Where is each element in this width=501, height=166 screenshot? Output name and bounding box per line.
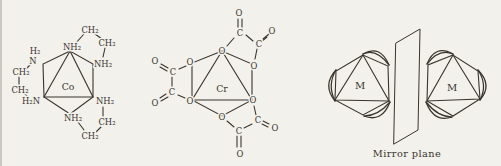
- amine-label-lower-left: H₂N: [22, 96, 40, 106]
- amine-label-top: NH₂: [63, 42, 81, 52]
- oxalate-bonds-bottom: [227, 106, 269, 147]
- oxygen-label-carbonyl-bottom-b: O: [272, 123, 279, 133]
- amine-label-lower-right: NH₂: [96, 96, 114, 106]
- carbon-label-top-a: C: [237, 28, 243, 38]
- ch2-label-top-a: CH₂: [81, 25, 98, 35]
- figure-canvas: Co NH₂ H₂ N NH₂ H₂N NH₂ NH₂ CH₂ CH₂ CH₂ …: [0, 0, 501, 166]
- mirror-diagram: M M Mirror plane: [329, 29, 486, 159]
- chromium-labels: Cr O O O O O O C C C C C C O O O O O O: [152, 8, 279, 159]
- oxygen-label-ring-lower-right: O: [250, 95, 257, 105]
- mirror-plane: [394, 29, 420, 144]
- chromium-metal-label: Cr: [216, 83, 228, 94]
- carbon-label-bottom-b: C: [255, 115, 261, 125]
- cobalt-labels: Co NH₂ H₂ N NH₂ H₂N NH₂ NH₂ CH₂ CH₂ CH₂ …: [11, 25, 115, 141]
- ch2-label-top-b: CH₂: [98, 38, 115, 48]
- oxygen-label-carbonyl-top-b: O: [269, 26, 276, 36]
- oxygen-label-ring-bottom: O: [219, 112, 226, 122]
- chromium-complex: Cr O O O O O O C C C C C C O O O O O O: [152, 8, 279, 159]
- ch2-label-left-a: CH₂: [12, 67, 29, 77]
- carbon-label-top-b: C: [256, 39, 262, 49]
- carbon-label-bottom-a: C: [236, 126, 242, 136]
- oxygen-label-ring-top: O: [219, 46, 226, 56]
- ch2-label-left-b: CH₂: [11, 85, 28, 95]
- ch2-label-bottom-b: CH₂: [98, 117, 115, 127]
- left-metal-label: M: [355, 80, 365, 91]
- oxygen-label-ring-upper-left: O: [187, 57, 194, 67]
- ch2-label-bottom-a: CH₂: [81, 131, 98, 141]
- amine-label-upper-right: NH₂: [94, 59, 112, 69]
- carbon-label-left-a: C: [170, 67, 176, 77]
- amine-label-upper-left-n: N: [29, 56, 36, 66]
- cobalt-metal-label: Co: [62, 81, 75, 92]
- oxygen-label-carbonyl-left-a: O: [152, 56, 159, 66]
- right-metal-label: M: [447, 82, 457, 93]
- amine-label-upper-left-h2: H₂: [30, 46, 41, 56]
- oxygen-label-carbonyl-bottom-a: O: [237, 149, 244, 159]
- right-octahedron: M: [426, 51, 486, 119]
- left-octahedron: M: [329, 51, 390, 118]
- oxygen-label-carbonyl-top-a: O: [236, 8, 243, 18]
- oxygen-label-ring-lower-left: O: [187, 96, 194, 106]
- amine-label-bottom: NH₂: [64, 113, 82, 123]
- carbon-label-left-b: C: [169, 87, 175, 97]
- cobalt-complex: Co NH₂ H₂ N NH₂ H₂N NH₂ NH₂ CH₂ CH₂ CH₂ …: [11, 25, 115, 141]
- mirror-plane-caption: Mirror plane: [373, 148, 441, 159]
- oxygen-label-carbonyl-left-b: O: [152, 98, 159, 108]
- oxygen-label-ring-upper-right: O: [251, 61, 258, 71]
- oxalate-bonds-top: [227, 19, 269, 59]
